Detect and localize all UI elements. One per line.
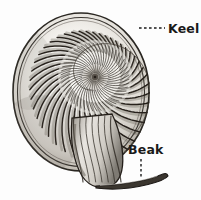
shell-core	[82, 64, 108, 90]
label-beak: Beak	[128, 142, 164, 178]
body-stem	[71, 114, 122, 188]
shell-body-whorl	[71, 114, 122, 188]
keel-label: Keel	[168, 21, 200, 36]
ammonite-illustration: Keel Beak	[0, 0, 201, 200]
beak-label: Beak	[128, 142, 164, 157]
label-keel: Keel	[139, 21, 200, 36]
ammonite-figure: Keel Beak	[0, 0, 201, 200]
